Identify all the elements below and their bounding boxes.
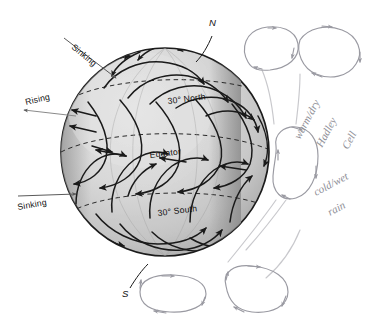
south-pole-label: S: [122, 288, 129, 299]
cell-loop-south-ferrel: [140, 275, 206, 313]
cell-loop-south-hadley: [225, 266, 288, 313]
callout-label-sinking-south: Sinking: [17, 197, 48, 212]
callout-label-sinking-north: Sinking: [70, 42, 99, 69]
cell-loop-north-polar: [244, 27, 298, 70]
annotations-group: warm/dry Hadley Cell cold/wet rain: [291, 97, 358, 217]
annotation-hadley: Hadley: [313, 115, 339, 150]
annotation-rain: rain: [325, 198, 347, 217]
cell-loop-north-ferrel: [299, 26, 360, 77]
callout-label-rising: Rising: [24, 92, 51, 107]
diagram-canvas: 30° North Equator 30° South N S Sinking …: [0, 0, 384, 321]
north-pole-label: N: [209, 17, 216, 28]
circulation-diagram-svg: 30° North Equator 30° South N S Sinking …: [0, 0, 384, 321]
callout-sinking-south: Sinking: [17, 194, 76, 212]
callout-sinking-north: Sinking: [64, 38, 116, 78]
annotation-cold-wet: cold/wet: [311, 169, 350, 198]
annotation-cell: Cell: [339, 129, 358, 151]
south-pole-leader-line: [130, 264, 148, 288]
